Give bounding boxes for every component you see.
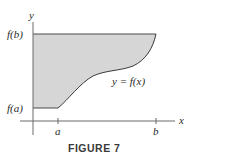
x-tick-a: a bbox=[55, 125, 61, 137]
y-axis-label: y bbox=[28, 9, 34, 21]
x-tick-b: b bbox=[153, 125, 159, 137]
x-axis-label: x bbox=[178, 114, 184, 126]
shaded-region bbox=[33, 34, 156, 108]
figure-diagram: y x f(b) f(a) a b y = f(x) FIGURE 7 bbox=[0, 0, 237, 161]
curve-label: y = f(x) bbox=[111, 75, 145, 88]
y-tick-f-b: f(b) bbox=[7, 28, 23, 41]
y-tick-f-a: f(a) bbox=[7, 102, 23, 115]
figure-caption: FIGURE 7 bbox=[68, 142, 120, 154]
